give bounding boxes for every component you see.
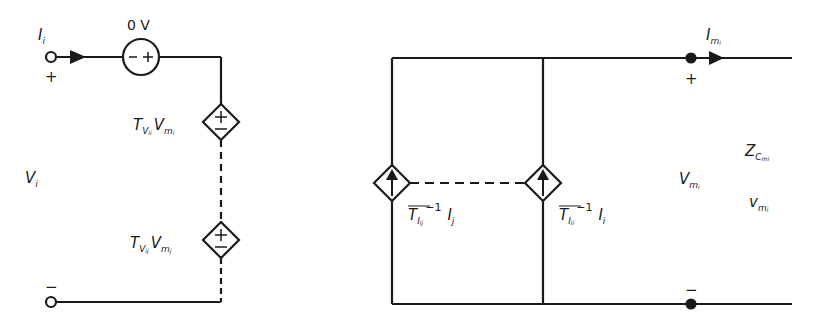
output-node-bottom	[687, 300, 696, 309]
output-voltage-label: Vmi	[679, 170, 700, 190]
input-current-label: Ii	[38, 26, 45, 46]
current-arrow-icon	[70, 50, 86, 64]
input-plus-sign: +	[45, 68, 58, 86]
input-minus-sign: −	[45, 278, 58, 296]
voltage-source-0v	[123, 39, 159, 75]
input-terminal-bottom	[46, 297, 56, 307]
small-voltage-label: vmi	[749, 193, 769, 213]
output-node-top	[687, 54, 696, 63]
input-voltage-label: Vi	[25, 169, 38, 189]
output-minus-sign: −	[685, 281, 698, 299]
output-current-label: Imi	[706, 26, 721, 46]
dep-current-2-label: TIii−1Ii	[559, 201, 606, 226]
dep-current-1-label: TIij−1Ij	[408, 201, 455, 227]
dep-source-1-label: TViiVmi	[133, 116, 175, 136]
impedance-label: ZCmi	[744, 142, 769, 162]
circuit-diagram: Ii + − Vi 0 V TViiVmi TVijVmj TIij−1Ij T…	[0, 0, 821, 327]
input-terminal-top	[46, 52, 56, 62]
source-voltage-label: 0 V	[127, 17, 150, 33]
output-plus-sign: +	[685, 70, 698, 88]
output-current-arrow-icon	[709, 51, 724, 65]
dep-source-2-label: TVijVmj	[130, 234, 172, 255]
